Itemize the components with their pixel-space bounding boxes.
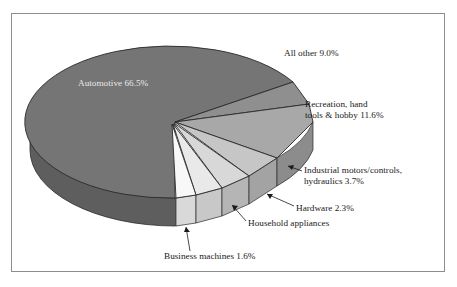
slice-label-hardware: Hardware 2.3% [296, 203, 354, 214]
slice-label-industrial-line1: Industrial motors/controls, [304, 165, 402, 176]
slice-label-industrial-line2: hydraulics 3.7% [304, 176, 402, 187]
pie-chart-graphic [0, 0, 457, 287]
slice-side-business [176, 195, 196, 226]
slice-label-recreation-line2: tools & hobby 11.6% [305, 110, 384, 121]
slice-label-automotive: Automotive 66.5% [78, 78, 148, 89]
slice-label-recreation-line1: Recreation, hand [305, 99, 384, 110]
slice-label-household-appliances: Household appliances [248, 218, 329, 229]
slice-label-industrial: Industrial motors/controls, hydraulics 3… [304, 165, 402, 188]
arrowhead-business [184, 227, 190, 232]
slice-label-business-machines: Business machines 1.6% [164, 251, 256, 262]
slice-label-recreation: Recreation, hand tools & hobby 11.6% [305, 99, 384, 122]
pie-chart-figure: Automotive 66.5% All other 9.0% Recreati… [0, 0, 457, 287]
slice-label-all-other: All other 9.0% [284, 48, 339, 59]
